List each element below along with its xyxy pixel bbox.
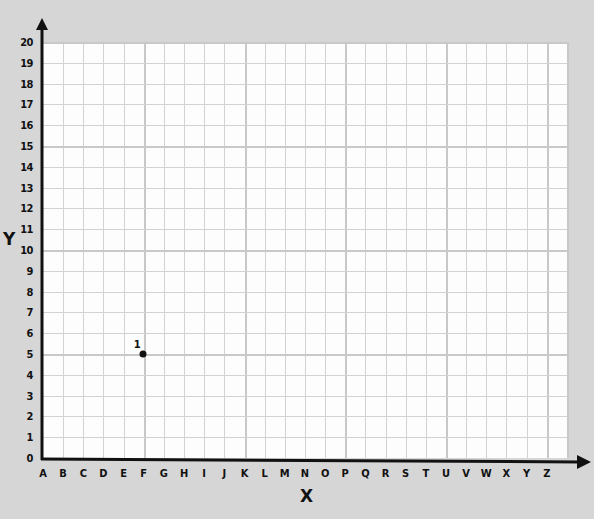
x-axis — [41, 455, 591, 469]
data-point-label: 1 — [134, 339, 141, 350]
data-point — [139, 351, 146, 358]
axes — [0, 0, 594, 519]
coordinate-grid-chart: 01234567891011121314151617181920ABCDEFGH… — [0, 0, 594, 519]
x-axis-arrow-icon — [577, 455, 591, 469]
y-axis-arrow-icon — [36, 18, 48, 30]
y-axis-label: Y — [3, 229, 15, 249]
y-axis — [36, 18, 48, 460]
x-axis-label: X — [300, 486, 313, 506]
